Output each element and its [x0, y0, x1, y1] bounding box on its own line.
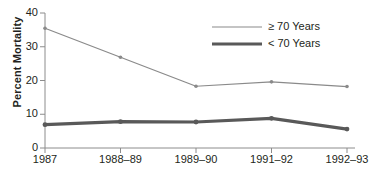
x-axis-tick-label: 1992–93	[326, 153, 369, 165]
data-point	[270, 80, 274, 84]
data-point	[194, 120, 199, 125]
data-point	[345, 127, 350, 132]
x-axis-tick-label: 1988–89	[99, 153, 142, 165]
mortality-line-chart: Percent Mortality 010203040 19871988–891…	[0, 0, 370, 175]
data-point	[43, 26, 47, 30]
data-point	[119, 55, 123, 59]
x-axis-tick-label: 1989–90	[175, 153, 218, 165]
legend-label: < 70 Years	[268, 38, 320, 49]
data-point	[194, 84, 198, 88]
data-point	[345, 85, 349, 89]
data-point	[43, 122, 48, 127]
data-point	[269, 116, 274, 121]
data-point	[118, 119, 123, 124]
legend-label: ≥ 70 Years	[268, 21, 320, 32]
x-axis-tick-label: 1991–92	[250, 153, 293, 165]
x-axis-tick-label: 1987	[33, 153, 57, 165]
